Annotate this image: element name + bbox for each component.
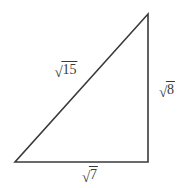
triangle-outline: [15, 14, 148, 162]
vertical-leg-radicand: 8: [166, 81, 175, 97]
hypotenuse-radicand: 15: [62, 61, 78, 77]
vertical-leg-label: √8: [159, 83, 175, 99]
triangle-figure: √15 √8 √7: [0, 0, 190, 188]
base-leg-label: √7: [82, 168, 98, 184]
hypotenuse-label: √15: [54, 63, 77, 79]
base-leg-radicand: 7: [89, 166, 98, 182]
